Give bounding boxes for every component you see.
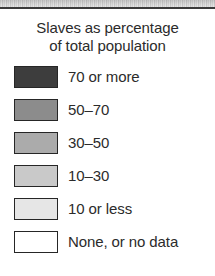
legend-entry-label: 50–70 [68,99,109,121]
legend-entry: 70 or more [0,60,215,93]
legend-entry-label: 10–30 [68,165,109,187]
legend-color-swatch [14,99,58,121]
legend-entry-label: 30–50 [68,132,109,154]
legend-color-swatch [14,165,58,187]
top-decorative-band [0,0,215,7]
legend-entry: None, or no data [0,225,215,258]
map-legend-panel: Slaves as percentage of total population… [0,0,215,276]
legend-title-line-1: Slaves as percentage [0,19,215,37]
legend-title: Slaves as percentage of total population [0,19,215,55]
legend-color-swatch [14,132,58,154]
legend-title-line-2: of total population [0,37,215,55]
legend-entry: 30–50 [0,126,215,159]
legend-entry-label: None, or no data [68,231,178,253]
legend-entry-label: 70 or more [68,66,140,88]
legend-entry: 50–70 [0,93,215,126]
legend-color-swatch [14,198,58,220]
legend-entry: 10–30 [0,159,215,192]
top-divider-rule [0,7,215,9]
legend-color-swatch [14,66,58,88]
legend-entry-label: 10 or less [68,198,132,220]
legend-entry-list: 70 or more 50–70 30–50 10–30 10 or less … [0,60,215,258]
legend-entry: 10 or less [0,192,215,225]
legend-color-swatch [14,231,58,253]
